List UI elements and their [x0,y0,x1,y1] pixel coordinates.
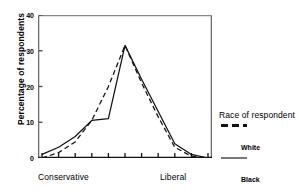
y-tick-0: 0 [18,155,34,162]
y-tick-10: 10 [18,119,34,126]
x-axis-ticks [42,153,208,157]
plot-frame [38,16,212,159]
legend-label-black: Black [241,176,260,183]
legend: Race of respondent White Black [219,110,307,184]
series-line-black [42,45,208,158]
x-axis-right-label: Liberal [160,172,186,182]
legend-swatch-solid-icon [221,157,247,159]
legend-item-black [219,155,307,168]
y-tick-30: 30 [18,48,34,55]
legend-label-white: White [241,144,260,151]
chart-container: Percentage of respondents 40 30 20 10 0 … [0,0,307,194]
legend-swatch-dashed-icon [221,124,247,127]
legend-label-black-row: Black [219,171,307,184]
chart-plot-svg [38,15,212,158]
y-tick-40: 40 [18,12,34,19]
legend-item-white [219,123,307,136]
y-axis-tick-labels: 40 30 20 10 0 [18,0,34,194]
plot-area [38,15,212,158]
y-tick-20: 20 [18,84,34,91]
x-axis-left-label: Conservative [38,172,89,182]
y-axis-ticks [39,15,43,158]
legend-title: Race of respondent [219,110,307,120]
series-line-white [42,45,208,158]
legend-label-white-row: White [219,139,307,152]
